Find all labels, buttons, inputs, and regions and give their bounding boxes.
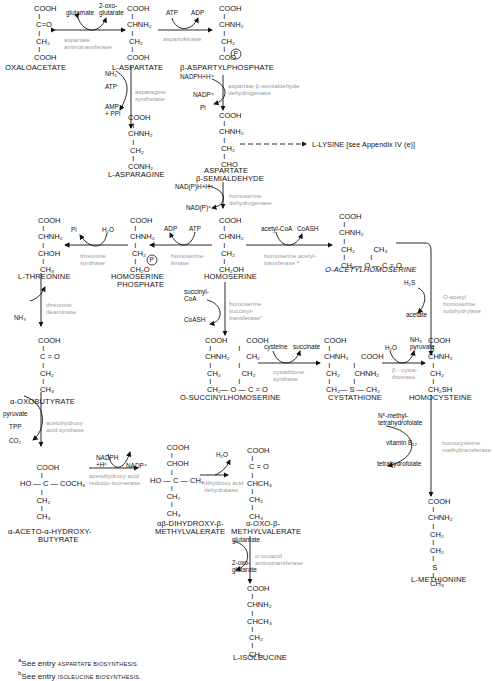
cofactor-pyruvate: pyruvate (3, 410, 28, 417)
enzyme-o-acetylhomoserine-sulphydrylase: O-acetyl homoserine sulphydrylase (443, 293, 481, 315)
structure: COOH I CHNH₂ I CH₂ CH₃ I I CH₂— O — C = … (339, 213, 402, 270)
cofactor-glutamate: glutamate (232, 536, 260, 543)
cofactor-nadph: NADPH+H⁺ (180, 73, 214, 80)
enzyme-aspartokinase: aspartokinase (163, 35, 202, 42)
footnote-ref: ISOLEUCINE BIOSYNTHESIS. (58, 674, 141, 680)
compound-name: CYSTATHIONE (328, 393, 382, 402)
cofactor-vitamin-b12: vitamin B₁₂ (386, 439, 417, 446)
structure: COOH I CHNH₂ I CH₂ I CHO (219, 112, 244, 169)
structure: COOH COOH I I CHNH₂ CH₂ I I CH₂ CH₂ I I … (205, 337, 269, 394)
compound-name: O-ACETYLHOMOSERINE (325, 265, 417, 274)
cofactor-2-oxoglutarate: 2-oxo- glutarate (232, 559, 257, 573)
enzyme-threonine-synthase: threonine synthase (80, 252, 106, 266)
enzyme-homoserine-acetyltransferase: homoserine acetyl- transferase ᵃ (264, 252, 316, 266)
enzyme-homoserine-dehydrogenase: homoserine dehydrogenase (229, 192, 272, 206)
footnote-prefix: See entry (21, 672, 57, 681)
compound-name: α-OXOBUTYRATE (10, 397, 75, 406)
cofactor-h2o: H₂O (216, 451, 228, 458)
enzyme-reductoisomerase: acetohydroxy acid reducto-isomerase (89, 472, 140, 486)
cofactor-amp-ppi: AMP + PPi (105, 103, 120, 117)
cofactor-h2s: H₂S (404, 279, 415, 286)
compound-l-lysine: L-LYSINE [see Appendix IV (e)] (312, 140, 415, 149)
enzyme-homoserine-kinase: homoserine kinase (171, 252, 203, 266)
enzyme-cystathione-synthase: cystathione synthase (273, 368, 304, 382)
structure: COOH I CHNH₂ I CH₂ I CONH₂ (128, 114, 153, 171)
compound-name: β-SEMIALDEHYDE (196, 174, 264, 183)
structure: COOH I CHOH I HO — C — CH₃ I CH₂ I CH₃ (150, 444, 204, 518)
cofactor-atp: ATP (189, 225, 201, 232)
footnote-ref: ASPARTATE BIOSYNTHESIS. (58, 661, 139, 667)
cofactor-adp: ADP (191, 9, 204, 16)
cofactor-coash: CoASH (184, 316, 205, 323)
enzyme-b-cystathionase: β - cysta- thionase (392, 366, 418, 380)
enzyme-acetohydroxy-acid-synthase: acetohydroxy acid synthase (46, 419, 84, 433)
structure: COOH I CHNH₂ COOH I I CH₂ CHNH₂ I I CH₂—… (324, 337, 384, 394)
enzyme-aspartate-aminotransferase: aspartate aminotransferase (64, 36, 112, 50)
structure: COOH I C = O I CHCH₃ I CH₂ I CH₃ (247, 447, 272, 521)
cofactor-acetate: acetate (406, 311, 427, 318)
compound-name: HOMOCYSTEINE (409, 393, 472, 402)
cofactor-n5-methyl-thf: N⁵-methyl- tetrahydrofolate (378, 412, 422, 426)
structure: COOH I CHNH₂ I CH₂ I CH₂O (130, 217, 155, 274)
enzyme-threonine-deaminase: threonine deaminase (46, 301, 76, 315)
cofactor-atp: ATP (166, 9, 178, 16)
cofactor-h2o: H₂O (385, 344, 397, 351)
compound-name: BUTYRATE (38, 535, 79, 544)
cofactor-nadp: NAD(P)⁺ (186, 204, 211, 211)
compound-name: L-ISOLEUCINE (233, 653, 287, 662)
compound-name: L-ASPARAGINE (108, 170, 165, 179)
cofactor-nadp: NADP⁺ (193, 91, 214, 98)
structure: COOH I C=O I CH₂ I COOH (34, 5, 57, 62)
compound-name: L-ASPARTATE (112, 63, 163, 72)
enzyme-asparagine-synthetase: asparagine synthetase (135, 88, 166, 102)
compound-name: O-SUCCINYLHOMOSERINE (180, 393, 281, 402)
compound-name: METHYLVALERATE (155, 527, 225, 536)
cofactor-atp: ATP (105, 83, 117, 90)
cofactor-adp: ADP (164, 225, 177, 232)
structure: COOH I CHNH₂ I CH₂ I COOH (127, 5, 152, 62)
compound-name: L-THREONINE (18, 272, 71, 281)
compound-name: L-METHIONINE (411, 575, 467, 584)
cofactor-succinyl-coa: succinyl- CoA (184, 288, 209, 302)
cofactor-glutamate: glutamate (66, 9, 94, 16)
cofactor-cysteine: cysteine (264, 343, 287, 350)
cofactor-tpp: TPP (9, 423, 21, 430)
structure: COOH I CHNH₂ I CHCH₃ I CH₂ I CH₃ (247, 585, 272, 659)
compound-name: PHOSPHATE (117, 280, 164, 289)
cofactor-nadph: NADPH +H⁺ (96, 454, 118, 468)
cofactor-nh3: NH₃ (14, 314, 26, 321)
footnote-b: bSee entry ISOLEUCINE BIOSYNTHESIS. (18, 670, 141, 681)
compound-name: HOMOSERINE (204, 272, 257, 281)
cofactor-coash: CoASH (297, 225, 318, 232)
compound-name: METHYLVALERATE (231, 527, 301, 536)
cofactor-nadph: NAD(P)H+H⁺ (175, 183, 213, 190)
cofactor-2-oxoglutarate: 2-oxo- glutarate (99, 2, 124, 16)
enzyme-homoserine-succinyltransferase: homoserine succinyl- transferaseᶜ (229, 300, 262, 322)
enzyme-aspartate-semialdehyde-dehydrogenase: aspartate β-semialdehyde dehydrogenase (228, 82, 299, 96)
structure: COOH I CHNH₂ I CHOH I CH₃ (38, 217, 63, 274)
compound-name: OXALOACETATE (5, 63, 66, 72)
structure: COOH I C = O I CH₂ I CH₃ (38, 337, 61, 394)
footnote-prefix: See entry (21, 659, 57, 668)
structure: COOH I HO — C — COCH₃ I CH₂ I CH₃ (20, 464, 85, 521)
cofactor-nadp: NADP⁺ (126, 462, 147, 469)
footnote-a: aSee entry ASPARTATE BIOSYNTHESIS. (18, 657, 139, 668)
cofactor-co2: CO₂ (9, 437, 21, 444)
cofactor-nh3-pyruvate: NH₃ pyruvate (410, 336, 435, 350)
enzyme-dihydroxy-acid-dehydratase: dihydroxy acid dehydratase (204, 479, 244, 493)
structure: COOH I CHNH₂ I CH₂ I CH₂OH (219, 217, 244, 274)
structure: COOH I CHNH₂ I CH₂ I COO (219, 5, 244, 62)
cofactor-tetrahydrofolate: tetrahydrofolate (377, 460, 421, 467)
cofactor-h2o: H₂O (102, 226, 114, 233)
enzyme-homocysteine-methyltransferase: homocysteine methyltransferase (442, 439, 491, 453)
cofactor-nh3: NH₃ (105, 70, 117, 77)
cofactor-pi: Pi (71, 226, 77, 233)
cofactor-pi: Pi (200, 104, 206, 111)
compound-name: β-ASPARTYLPHOSPHATE (180, 63, 274, 72)
enzyme-oxoacid-aminotransferase: α-oxoacid aminotransferase (255, 552, 303, 566)
cofactor-acetyl-coa: acetyl-CoA (261, 225, 292, 232)
cofactor-succinate: succinate (293, 343, 320, 350)
